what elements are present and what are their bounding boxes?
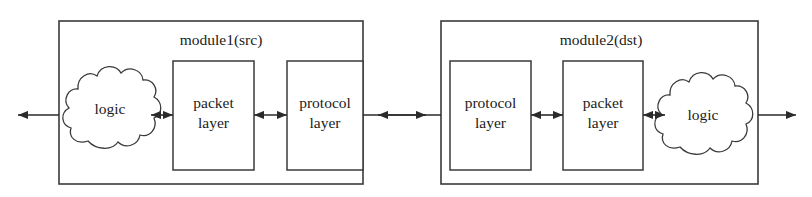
module1-protocol-layer-line2: layer (310, 114, 342, 131)
module2-logic-label: logic (688, 106, 719, 123)
module1-title: module1(src) (180, 31, 263, 49)
protocol-stack-diagram: module1(src) logic packet layer protocol… (0, 0, 812, 197)
module1-packet-layer-line2: layer (198, 114, 230, 131)
module2-packet-layer-line1: packet (583, 94, 624, 111)
module1-packet-layer-line1: packet (193, 94, 234, 111)
module1-protocol-layer-line1: protocol (299, 94, 351, 111)
module2-title: module2(dst) (560, 31, 643, 49)
module2-protocol-layer-line2: layer (475, 114, 507, 131)
diagram-canvas: module1(src) logic packet layer protocol… (0, 0, 812, 197)
module2-protocol-layer-line1: protocol (465, 94, 517, 111)
module2-packet-layer-line2: layer (588, 114, 620, 131)
module1-logic-label: logic (95, 100, 126, 117)
